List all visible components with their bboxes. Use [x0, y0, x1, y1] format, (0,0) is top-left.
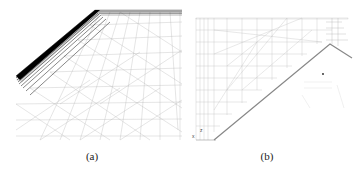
mesh-panel-a: [0, 0, 182, 150]
mesh-crosssection-image: [182, 0, 364, 150]
caption-a: (a): [72, 150, 112, 162]
axis-label-z: z: [200, 128, 203, 133]
axis-label-x: x: [192, 134, 195, 139]
mesh-panel-b: z x: [182, 0, 364, 150]
caption-b: (b): [247, 150, 287, 162]
mesh-perspective-image: [0, 0, 182, 150]
